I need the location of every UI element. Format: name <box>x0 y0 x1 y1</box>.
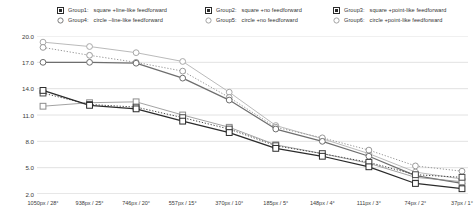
x-tick-label: 185px / 5° <box>263 200 288 207</box>
y-tick-label: 5.0 <box>4 164 34 171</box>
legend-item-desc: square +no feedforward <box>242 7 302 13</box>
legend-row: Group4: circle –line-like feedforward Gr… <box>56 15 456 25</box>
chart-legend: Group1: square +line-like feedforward Gr… <box>56 5 456 27</box>
plot-svg <box>37 36 468 194</box>
y-tick-label: 14.0 <box>4 85 34 92</box>
x-tick-label: 557px / 15° <box>169 200 197 207</box>
y-axis: 20.017.014.011.08.05.02.0 <box>0 0 34 221</box>
legend-item-name: Group1: <box>68 7 89 13</box>
legend-item-group3: Group3: square +point-like feedforward <box>332 5 456 15</box>
y-tick-label: 20.0 <box>4 33 34 40</box>
square-filled-marker-icon <box>332 6 341 15</box>
legend-item-desc: square +line-like feedforward <box>94 7 167 13</box>
x-tick-label: 746px / 20° <box>122 200 150 207</box>
circle-open-marker-icon <box>204 16 213 25</box>
legend-item-group2: Group2: square +no feedforward <box>204 5 332 15</box>
series-group1 <box>40 88 465 192</box>
y-tick-label: 11.0 <box>4 112 34 119</box>
legend-item-desc: circle +no feedforward <box>242 17 298 23</box>
y-tick-label: 8.0 <box>4 138 34 145</box>
square-filled-marker-icon <box>204 6 213 15</box>
x-tick-label: 938px / 25° <box>76 200 104 207</box>
circle-open-marker-icon <box>332 16 341 25</box>
series-group5 <box>40 39 465 182</box>
chart-figure: Group1: square +line-like feedforward Gr… <box>0 0 474 221</box>
legend-item-name: Group2: <box>216 7 237 13</box>
legend-item-name: Group3: <box>344 7 365 13</box>
x-axis: 1050px / 28°938px / 25°746px / 20°557px … <box>0 200 474 216</box>
legend-item-group1: Group1: square +line-like feedforward <box>56 5 204 15</box>
legend-item-name: Group4: <box>68 17 89 23</box>
legend-item-desc: square +point-like feedforward <box>370 7 447 13</box>
x-tick-label: 111px / 3° <box>357 200 381 207</box>
x-tick-label: 1050px / 28° <box>28 200 59 207</box>
x-tick-label: 370px / 10° <box>215 200 243 207</box>
x-tick-label: 37px / 1° <box>451 200 473 207</box>
x-tick-label: 148px / 4° <box>310 200 335 207</box>
plot-area <box>37 36 468 194</box>
x-tick-label: 74px / 2° <box>405 200 427 207</box>
legend-item-name: Group6: <box>344 17 365 23</box>
legend-item-name: Group5: <box>216 17 237 23</box>
legend-item-group5: Group5: circle +no feedforward <box>204 15 332 25</box>
y-tick-label: 2.0 <box>4 191 34 198</box>
series-group4 <box>40 59 465 186</box>
legend-item-desc: circle –line-like feedforward <box>94 17 163 23</box>
square-filled-marker-icon <box>56 6 65 15</box>
legend-item-group6: Group6: circle +point-like feedforward <box>332 15 456 25</box>
y-tick-label: 17.0 <box>4 59 34 66</box>
legend-row: Group1: square +line-like feedforward Gr… <box>56 5 456 15</box>
legend-item-desc: circle +point-like feedforward <box>370 17 443 23</box>
legend-item-group4: Group4: circle –line-like feedforward <box>56 15 204 25</box>
circle-open-marker-icon <box>56 16 65 25</box>
